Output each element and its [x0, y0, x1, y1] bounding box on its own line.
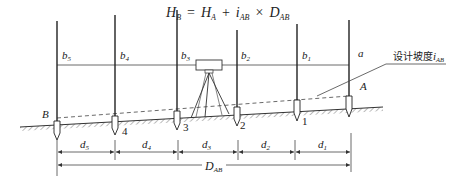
- level-instrument-icon: [191, 60, 229, 118]
- stake-3: [174, 10, 180, 130]
- slope-staking-diagram: HB=HA+iAB×DAB: [0, 0, 471, 189]
- distance-d2: d2: [261, 138, 271, 152]
- formula-plus: +: [222, 5, 230, 20]
- stake-2: [234, 30, 240, 126]
- formula-times: ×: [256, 5, 264, 20]
- formula-term3: D: [268, 5, 279, 20]
- reading-b3: b3: [181, 49, 191, 63]
- stake-B: [54, 21, 60, 140]
- reading-a: a: [358, 47, 364, 59]
- point-4-label: 4: [122, 125, 128, 137]
- stake-A: [346, 20, 352, 117]
- distance-d3: d3: [202, 138, 212, 152]
- point-2-label: 2: [240, 119, 246, 131]
- ground: [20, 107, 383, 131]
- point-1-label: 1: [302, 115, 308, 127]
- formula-term1-sub: A: [210, 13, 216, 22]
- reading-b5: b5: [62, 49, 72, 63]
- slope-annotation: 设计坡度iAB: [317, 50, 446, 96]
- svg-text:HB=HA+iAB×DAB: HB=HA+iAB×DAB: [165, 5, 289, 22]
- formula-term3-sub: AB: [279, 13, 290, 22]
- distance-d4: d4: [142, 138, 152, 152]
- stake-1: [294, 24, 300, 121]
- distance-d1: d1: [318, 138, 327, 152]
- point-B-label: B: [42, 108, 49, 120]
- formula: HB=HA+iAB×DAB: [165, 5, 289, 22]
- reading-b1: b1: [302, 49, 311, 63]
- stake-4: [112, 15, 118, 135]
- slope-label: 设计坡度iAB: [393, 50, 444, 63]
- reading-b2: b2: [241, 49, 251, 63]
- formula-term2-sub: AB: [239, 13, 250, 22]
- point-3-label: 3: [183, 121, 189, 133]
- distance-d5: d5: [80, 138, 90, 152]
- distance-DAB: DAB: [204, 159, 223, 174]
- formula-eq: =: [187, 5, 195, 20]
- reading-b4: b4: [120, 49, 130, 63]
- point-A-label: A: [359, 80, 367, 92]
